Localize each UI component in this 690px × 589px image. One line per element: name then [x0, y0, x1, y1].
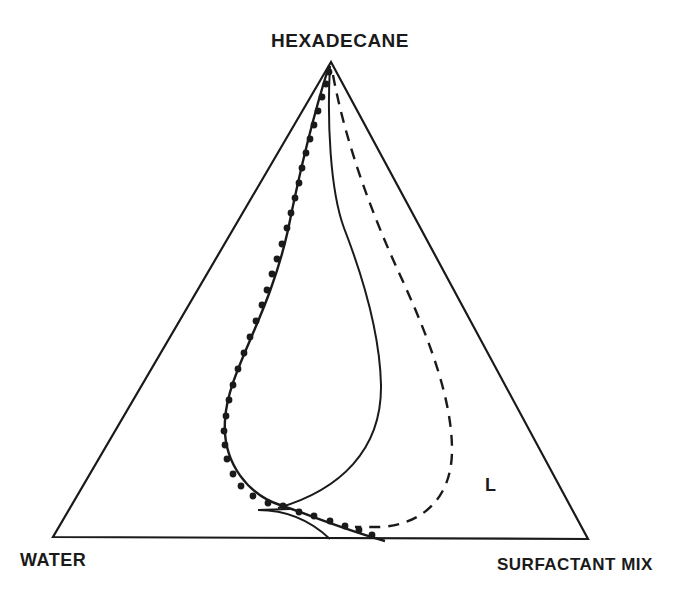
- dashed-boundary: [333, 75, 452, 527]
- vertex-label-bottom-left: WATER: [20, 550, 86, 570]
- dotted-boundary: [225, 66, 385, 541]
- vertex-label-top: HEXADECANE: [271, 30, 409, 51]
- data-point-markers: [221, 69, 376, 539]
- vertex-label-bottom-right: SURFACTANT MIX: [497, 555, 653, 574]
- inner-solid-boundary: [278, 66, 381, 508]
- ternary-diagram: HEXADECANE WATER SURFACTANT MIX L: [0, 0, 690, 589]
- junction-tick: [258, 509, 290, 510]
- lower-solid-arc: [258, 510, 330, 539]
- region-label-l: L: [485, 475, 497, 495]
- ternary-triangle: [53, 62, 588, 539]
